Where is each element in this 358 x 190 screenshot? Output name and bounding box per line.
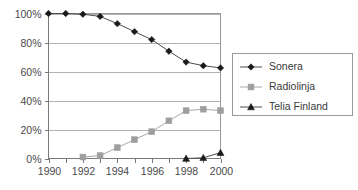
- data-point-marker: [200, 106, 206, 112]
- legend-label: Telia Finland: [269, 100, 328, 112]
- y-axis-ticks: 0%20%40%60%80%100%: [15, 8, 49, 165]
- data-point-marker: [183, 108, 189, 114]
- y-tick-label: 40%: [20, 95, 41, 107]
- data-point-marker: [217, 149, 224, 155]
- data-point-marker: [218, 108, 224, 114]
- legend-label: Sonera: [269, 60, 303, 72]
- x-axis-ticks: 199019921994199619982000: [38, 159, 234, 177]
- x-tick-label: 1996: [141, 165, 165, 177]
- data-point-marker: [63, 10, 69, 16]
- data-point-marker: [97, 153, 103, 159]
- data-point-marker: [114, 145, 120, 151]
- data-point-marker: [149, 129, 155, 135]
- y-tick-label: 20%: [20, 124, 41, 136]
- line-chart: 0%20%40%60%80%100% 199019921994199619982…: [0, 0, 358, 190]
- data-point-marker: [132, 137, 138, 143]
- x-tick-label: 1992: [72, 165, 96, 177]
- series-line: [49, 14, 221, 68]
- data-point-marker: [45, 10, 51, 16]
- y-tick-label: 0%: [26, 153, 41, 165]
- series-telia-finland: [183, 149, 224, 161]
- data-series-layer: [45, 10, 224, 161]
- series-sonera: [45, 10, 223, 71]
- x-tick-label: 1990: [38, 165, 62, 177]
- series-radiolinja: [80, 106, 223, 160]
- chart-legend: SoneraRadiolinjaTelia Finland: [233, 54, 353, 116]
- legend-label: Radiolinja: [269, 80, 315, 92]
- data-point-marker: [149, 36, 155, 42]
- data-point-marker: [200, 63, 206, 69]
- data-point-marker: [166, 48, 172, 54]
- square-marker-icon: [248, 84, 254, 90]
- x-tick-label: 1998: [175, 165, 199, 177]
- data-point-marker: [166, 118, 172, 124]
- data-point-marker: [80, 11, 86, 17]
- y-tick-label: 80%: [20, 37, 41, 49]
- data-point-marker: [114, 20, 120, 26]
- chart-container: 0%20%40%60%80%100% 199019921994199619982…: [0, 0, 358, 190]
- data-point-marker: [217, 65, 223, 71]
- y-tick-label: 60%: [20, 66, 41, 78]
- data-point-marker: [80, 154, 86, 160]
- data-point-marker: [183, 59, 189, 65]
- x-tick-label: 1994: [106, 165, 130, 177]
- y-tick-label: 100%: [15, 8, 42, 20]
- x-tick-label: 2000: [210, 165, 234, 177]
- data-point-marker: [131, 28, 137, 34]
